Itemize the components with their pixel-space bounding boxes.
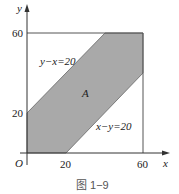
x-tick-20: 20	[60, 158, 72, 170]
x-tick-60: 60	[137, 158, 149, 170]
y-tick-20: 20	[12, 107, 24, 119]
region-label-a: A	[81, 87, 89, 99]
x-axis-label: x	[162, 157, 168, 169]
x-axis-arrow-icon	[162, 151, 170, 156]
line-label-y-minus-x: y−x=20	[39, 55, 76, 67]
diagram-canvas: x y O 20 60 20 60 y−x=20 x−y=20 A 图 1−9	[0, 0, 179, 194]
y-tick-60: 60	[12, 27, 24, 39]
y-axis-arrow-icon	[25, 4, 30, 12]
line-label-x-minus-y: x−y=20	[95, 120, 132, 132]
y-axis-label: y	[16, 2, 22, 14]
origin-label: O	[15, 157, 23, 169]
figure-caption: 图 1−9	[76, 179, 109, 191]
